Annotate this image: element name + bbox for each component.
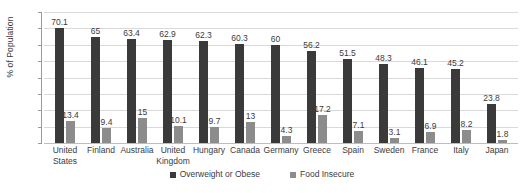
x-axis-label: Germany [263,145,299,171]
bar-food-insecure[interactable]: 13 [246,122,255,143]
x-axis-label: Sweden [371,145,407,171]
bar-value-label: 48.3 [375,54,392,63]
bar-value-label: 15 [138,108,147,117]
legend-swatch-icon [170,172,176,178]
bar-food-insecure[interactable]: 6.9 [426,132,435,143]
bar-value-label: 6.9 [425,122,437,131]
bar-value-label: 63.4 [123,29,140,38]
bar-value-label: 8.2 [461,120,473,129]
bar-group: 51.57.1 [335,12,371,143]
x-axis-labels: United StatesFinlandAustraliaUnited King… [44,145,518,171]
x-axis-label: United States [47,145,83,171]
x-axis-label: Greece [299,145,335,171]
bar-value-label: 13.4 [62,111,79,120]
bar-group: 604.3 [263,12,299,143]
bar-overweight[interactable]: 45.2 [451,69,460,143]
bar-food-insecure[interactable]: 8.2 [462,130,471,143]
legend-label: Overweight or Obese [180,170,260,179]
bar-value-label: 13 [246,112,255,121]
bar-value-label: 9.7 [209,117,221,126]
bar-food-insecure[interactable]: 1.8 [498,140,507,143]
y-axis-line [41,12,42,143]
bar-value-label: 60.3 [231,34,248,43]
bar-group: 62.910.1 [155,12,191,143]
bar-overweight[interactable]: 65 [91,37,100,143]
y-axis-title: % of Population [5,0,17,101]
bar-value-label: 62.3 [195,31,212,40]
bar-groups: 70.113.4659.463.41562.910.162.39.760.313… [44,12,518,143]
chart-legend: Overweight or ObeseFood Insecure [0,170,524,179]
bar-value-label: 56.2 [303,41,320,50]
bar-value-label: 51.5 [339,49,356,58]
x-axis-label: Australia [119,145,155,171]
bar-value-label: 45.2 [447,59,464,68]
bar-food-insecure[interactable]: 15 [138,118,147,143]
bar-overweight[interactable]: 56.2 [307,51,316,143]
bar-value-label: 23.8 [483,94,500,103]
x-axis-label: France [407,145,443,171]
plot-area: 01020304050607080 70.113.4659.463.41562.… [44,12,518,143]
bar-group: 60.313 [227,12,263,143]
bar-food-insecure[interactable]: 4.3 [282,136,291,143]
x-axis-label: Spain [335,145,371,171]
bar-group: 63.415 [119,12,155,143]
bar-food-insecure[interactable]: 10.1 [174,126,183,143]
bar-overweight[interactable]: 46.1 [415,68,424,143]
bar-overweight[interactable]: 62.9 [163,40,172,143]
bar-group: 46.16.9 [407,12,443,143]
bar-overweight[interactable]: 70.1 [55,28,64,143]
bar-food-insecure[interactable]: 9.7 [210,127,219,143]
bar-value-label: 65 [91,27,100,36]
bar-value-label: 10.1 [170,116,187,125]
bar-group: 56.217.2 [299,12,335,143]
x-axis-label: Italy [443,145,479,171]
bar-value-label: 1.8 [497,130,509,139]
bar-overweight[interactable]: 63.4 [127,39,136,143]
bar-value-label: 70.1 [51,18,68,27]
bar-overweight[interactable]: 62.3 [199,41,208,143]
bar-food-insecure[interactable]: 3.1 [390,138,399,143]
bar-group: 659.4 [83,12,119,143]
bar-overweight[interactable]: 23.8 [487,104,496,143]
x-axis-label: Canada [227,145,263,171]
bar-value-label: 3.1 [389,128,401,137]
bar-value-label: 9.4 [101,118,113,127]
bar-group: 45.28.2 [443,12,479,143]
bar-chart: % of Population 01020304050607080 70.113… [0,0,524,193]
y-tick-mark-0 [38,143,42,144]
x-axis-label: Hungary [191,145,227,171]
x-axis-label: Finland [83,145,119,171]
bar-value-label: 7.1 [353,121,365,130]
x-axis-label: United Kingdom [155,145,191,171]
bar-group: 70.113.4 [47,12,83,143]
bar-value-label: 4.3 [281,126,293,135]
bar-food-insecure[interactable]: 17.2 [318,115,327,143]
bar-overweight[interactable]: 48.3 [379,64,388,143]
bar-value-label: 60 [271,35,280,44]
x-axis-label: Japan [479,145,515,171]
bar-group: 48.33.1 [371,12,407,143]
bar-value-label: 17.2 [314,105,331,114]
bar-overweight[interactable]: 60 [271,45,280,143]
bar-overweight[interactable]: 51.5 [343,59,352,143]
legend-item[interactable]: Overweight or Obese [170,170,260,179]
bar-value-label: 46.1 [411,58,428,67]
legend-item[interactable]: Food Insecure [290,170,354,179]
legend-label: Food Insecure [300,170,354,179]
bar-food-insecure[interactable]: 9.4 [102,128,111,143]
bar-group: 62.39.7 [191,12,227,143]
bar-food-insecure[interactable]: 13.4 [66,121,75,143]
bar-overweight[interactable]: 60.3 [235,44,244,143]
bar-food-insecure[interactable]: 7.1 [354,131,363,143]
legend-swatch-icon [290,172,296,178]
bar-group: 23.81.8 [479,12,515,143]
bar-value-label: 62.9 [159,30,176,39]
gridline-0 [44,143,518,144]
